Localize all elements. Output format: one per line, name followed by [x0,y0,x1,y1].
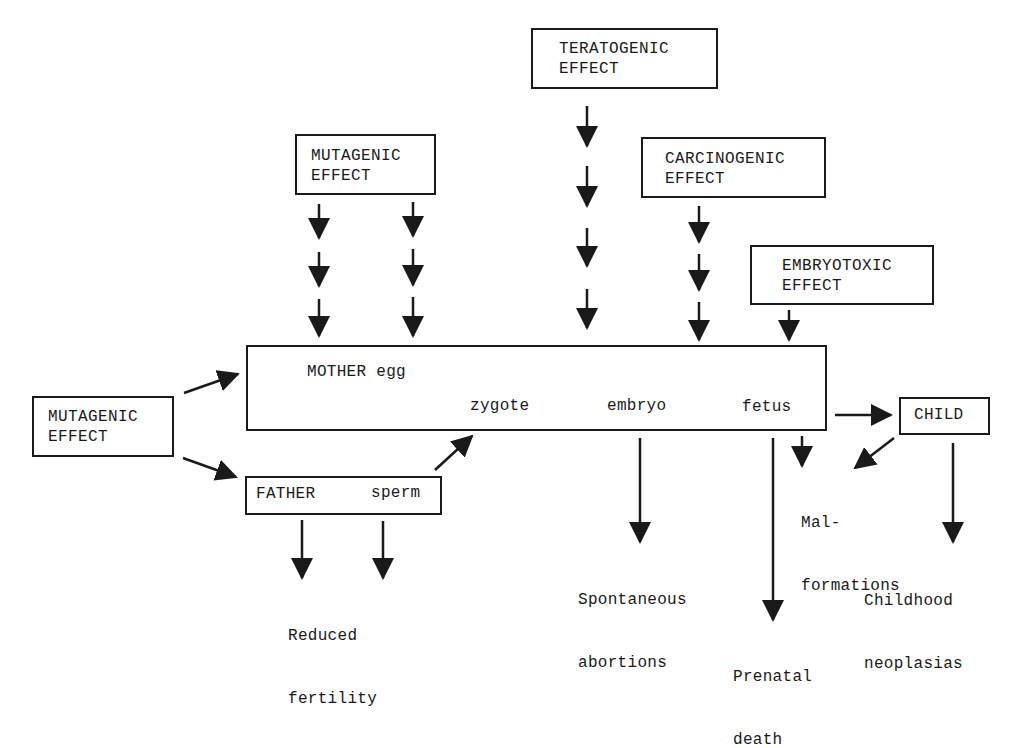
death-label: death [733,730,812,748]
embryotoxic-label: EMBRYOTOXIC [782,256,892,276]
teratogenic-effect-box: TERATOGENIC EFFECT [531,28,718,89]
father-label: FATHER [256,484,315,505]
teratogenic-label: TERATOGENIC [559,39,669,59]
mal-label: Mal- [801,513,900,534]
mutagenic-to-father-arrow [183,458,236,477]
spontaneous-label: Spontaneous [578,590,687,611]
fetus-label: fetus [742,397,792,418]
spontaneous-abortions-outcome: Spontaneous abortions [578,548,687,695]
mutagenic-to-mother-arrow [184,374,238,393]
mutagenic-effect-box-left: MUTAGENIC EFFECT [32,396,174,457]
mutagenic-effect-label: EFFECT [48,427,138,447]
child-label: CHILD [914,405,964,426]
neoplasias-label: neoplasias [864,654,963,675]
embryotoxic-effect-box: EMBRYOTOXIC EFFECT [750,245,934,305]
embryotoxic-effect-label: EFFECT [782,276,892,296]
mutagenic-label: MUTAGENIC [311,146,401,166]
father-to-zygote-arrow [435,436,472,470]
carcinogenic-effect-box: CARCINOGENIC EFFECT [641,137,826,198]
mutagenic-effect-label: EFFECT [311,166,401,186]
childhood-neoplasias-outcome: Childhood neoplasias [864,549,963,696]
zygote-label: zygote [470,396,529,417]
sperm-label: sperm [371,483,421,504]
fertility-label: fertility [288,689,377,710]
mother-egg-label: MOTHER egg [307,362,406,383]
mother-box [246,345,827,431]
mutagenic-effect-box-top: MUTAGENIC EFFECT [295,134,436,195]
carcinogenic-label: CARCINOGENIC [665,149,785,169]
child-to-malformations-arrow [855,438,894,468]
reduced-fertility-outcome: Reduced fertility [288,584,377,731]
embryo-label: embryo [607,396,666,417]
carcinogenic-effect-label: EFFECT [665,169,785,189]
reduced-label: Reduced [288,626,377,647]
prenatal-label: Prenatal [733,667,812,688]
mutagenic-label: MUTAGENIC [48,407,138,427]
prenatal-death-outcome: Prenatal death [733,625,812,748]
childhood-label: Childhood [864,591,963,612]
teratogenic-effect-label: EFFECT [559,59,669,79]
abortions-label: abortions [578,653,687,674]
